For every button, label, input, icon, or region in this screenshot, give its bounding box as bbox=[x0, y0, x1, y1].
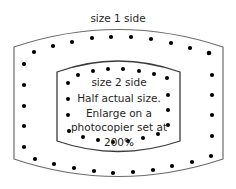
instruction-line: 200% bbox=[58, 135, 180, 150]
instruction-line: Enlarge on a bbox=[58, 106, 180, 121]
instruction-line: photocopier set at bbox=[58, 120, 180, 135]
enlarge-instructions: Half actual size. Enlarge on a photocopi… bbox=[58, 91, 180, 149]
inner-shape-label: size 2 side bbox=[58, 76, 180, 89]
outer-shape-label: size 1 side bbox=[0, 12, 236, 25]
template-diagram: size 1 side size 2 side Half actual size… bbox=[0, 0, 236, 189]
instruction-line: Half actual size. bbox=[58, 91, 180, 106]
